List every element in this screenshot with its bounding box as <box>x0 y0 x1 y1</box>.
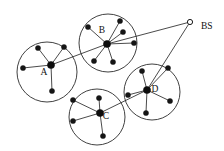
sensor-node-a-4[interactable] <box>49 88 54 93</box>
cluster-head-node-b[interactable] <box>103 40 110 47</box>
spoke-a-4 <box>51 65 52 91</box>
sensor-node-a-1[interactable] <box>35 45 40 50</box>
sensor-node-a-2[interactable] <box>61 44 66 49</box>
sensor-node-c-2[interactable] <box>70 97 75 102</box>
sensor-node-b-2[interactable] <box>117 18 122 23</box>
sensor-node-c-1[interactable] <box>96 95 101 100</box>
sensor-node-c-3[interactable] <box>70 118 75 123</box>
sensor-node-b-5[interactable] <box>91 58 96 63</box>
base-station-label: BS <box>201 21 213 31</box>
sensor-node-d-1[interactable] <box>139 68 144 73</box>
intra-cluster-link-layer <box>23 21 170 136</box>
sensor-node-d-5[interactable] <box>143 110 148 115</box>
diagram-canvas: ABCDBS <box>0 0 224 151</box>
backhaul-link-d-bs <box>147 22 190 90</box>
cluster-label-a: A <box>41 67 48 77</box>
backhaul-link-c-d <box>100 90 147 113</box>
label-layer: ABCDBS <box>41 21 213 121</box>
sensor-node-b-6[interactable] <box>110 59 115 64</box>
cluster-label-c: C <box>103 111 109 121</box>
sensor-node-c-4[interactable] <box>100 133 105 138</box>
sensor-node-d-3[interactable] <box>125 92 130 97</box>
sensor-node-d-4[interactable] <box>167 98 172 103</box>
network-topology-diagram: ABCDBS <box>0 0 224 151</box>
sensor-node-b-3[interactable] <box>120 29 125 34</box>
cluster-label-d: D <box>152 84 159 94</box>
sensor-node-a-3[interactable] <box>20 65 25 70</box>
base-station-icon[interactable] <box>187 19 192 24</box>
spoke-c-3 <box>73 113 100 121</box>
backhaul-link-b-bs <box>107 22 190 44</box>
cluster-head-node-a[interactable] <box>47 61 54 68</box>
spoke-b-2 <box>107 21 120 44</box>
spoke-c-2 <box>73 100 100 113</box>
cluster-head-node-d[interactable] <box>143 86 150 93</box>
sensor-node-b-4[interactable] <box>131 40 136 45</box>
cluster-label-b: B <box>99 25 105 35</box>
sensor-node-b-1[interactable] <box>85 24 90 29</box>
sensor-node-d-2[interactable] <box>165 65 170 70</box>
